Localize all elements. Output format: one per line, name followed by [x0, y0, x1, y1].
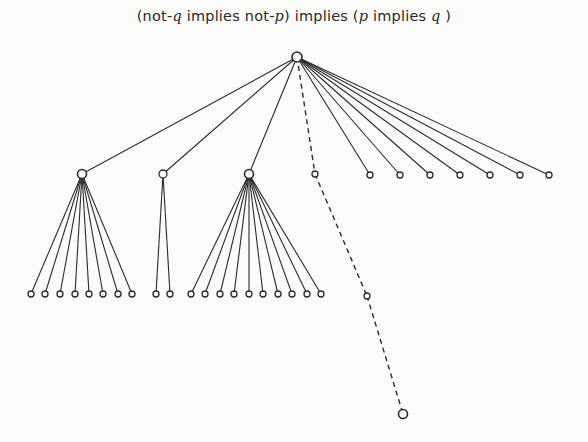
edge-root-to-leaf: [297, 57, 520, 175]
edge-root-to-B: [163, 57, 297, 174]
edge-root-to-leaf: [297, 57, 490, 175]
dashed-chain-node: [399, 410, 408, 419]
root-leaf-node: [367, 172, 373, 178]
leaf-node: [129, 291, 135, 297]
edge-dashed-chain: [315, 174, 367, 296]
root-leaf-node: [427, 172, 433, 178]
edge-C-to-leaf: [234, 174, 249, 294]
leaf-node: [42, 291, 48, 297]
edge-C-to-leaf: [191, 174, 249, 294]
leaf-node: [100, 291, 106, 297]
edge-B-to-leaf: [163, 174, 170, 294]
edge-dashed-chain: [367, 296, 403, 414]
leaf-node: [217, 291, 223, 297]
leaf-node: [167, 291, 173, 297]
leaf-node: [188, 291, 194, 297]
tree-nodes: [28, 52, 552, 419]
tree-edges: [31, 57, 549, 414]
leaf-node: [304, 291, 310, 297]
root-leaf-node: [546, 172, 552, 178]
edge-root-to-leaf: [297, 57, 549, 175]
edge-C-to-leaf: [249, 174, 307, 294]
leaf-node: [202, 291, 208, 297]
branch-node-B: [159, 170, 167, 178]
leaf-node: [231, 291, 237, 297]
leaf-node: [115, 291, 121, 297]
branch-node-D: [312, 171, 318, 177]
root-leaf-node: [397, 172, 403, 178]
leaf-node: [275, 291, 281, 297]
leaf-node: [28, 291, 34, 297]
dashed-chain-node: [364, 293, 370, 299]
leaf-node: [318, 291, 324, 297]
proof-tree-diagram: [0, 0, 588, 442]
edge-A-to-leaf: [82, 174, 132, 294]
root-leaf-node: [457, 172, 463, 178]
leaf-node: [57, 291, 63, 297]
branch-node-A: [78, 170, 87, 179]
leaf-node: [289, 291, 295, 297]
edge-B-to-leaf: [156, 174, 163, 294]
branch-node-C: [245, 170, 254, 179]
leaf-node: [153, 291, 159, 297]
leaf-node: [246, 291, 252, 297]
root-leaf-node: [487, 172, 493, 178]
leaf-node: [72, 291, 78, 297]
edge-C-to-leaf: [249, 174, 278, 294]
edge-root-to-leaf: [297, 57, 460, 175]
edge-root-to-C: [249, 57, 297, 174]
root-leaf-node: [517, 172, 523, 178]
edge-root-to-A: [82, 57, 297, 174]
edge-root-to-leaf: [297, 57, 370, 175]
leaf-node: [260, 291, 266, 297]
edge-C-to-leaf: [205, 174, 249, 294]
leaf-node: [86, 291, 92, 297]
edge-A-to-leaf: [31, 174, 82, 294]
edge-C-to-leaf: [220, 174, 249, 294]
root-node: [292, 52, 302, 62]
edge-root-to-leaf: [297, 57, 430, 175]
